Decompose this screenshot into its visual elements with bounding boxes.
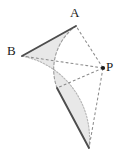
point-marker-p <box>101 66 105 70</box>
radius-PB-image <box>89 68 103 148</box>
radius-PA <box>76 26 103 68</box>
figure-canvas <box>0 0 122 160</box>
point-label-a: A <box>70 6 79 19</box>
point-label-p: P <box>106 60 113 73</box>
geometry-figure: A B P <box>0 0 122 160</box>
point-label-b: B <box>7 44 16 57</box>
